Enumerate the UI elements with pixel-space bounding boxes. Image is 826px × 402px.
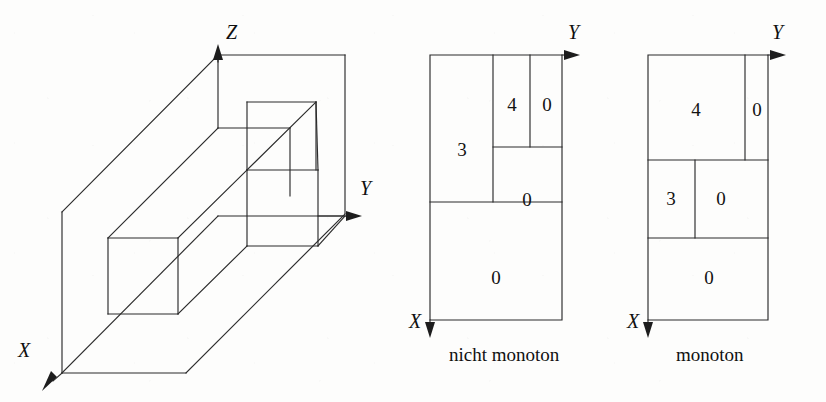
cell-value-nm-middle-right: 0 [517, 190, 537, 209]
blockA-bottom-right-diagonal [178, 246, 247, 314]
axis-label-y-monotone: Y [772, 22, 783, 42]
cell-value-nm-bottom-wide: 0 [486, 268, 506, 287]
z-axis-arrowhead [213, 44, 223, 60]
cell-value-m-bottom-wide: 0 [699, 268, 719, 287]
axis-label-x-monotone: X [627, 311, 639, 331]
nm-y-axis-arrowhead [564, 50, 580, 60]
m-y-axis-arrowhead [770, 50, 786, 60]
figure-vector-layer [0, 0, 826, 402]
slab-inner-ledge-diagonal [108, 128, 218, 238]
axis-label-y-non-monotone: Y [568, 22, 579, 42]
axis-label-y-3d: Y [360, 178, 371, 198]
slab-base-right-diagonal [186, 214, 345, 373]
axis-label-x-3d: X [18, 340, 30, 360]
slab-floor-left-diagonal [62, 216, 218, 373]
blockB-base-right-link [318, 216, 345, 246]
cell-value-m-top-right: 0 [747, 100, 767, 119]
axis-label-z-3d: Z [226, 22, 237, 42]
caption-non-monotone: nicht monoton [449, 345, 559, 364]
blockB-top-left-diagonal [247, 102, 316, 170]
m-x-axis-arrowhead [643, 322, 653, 338]
panel-isometric-geometry [42, 44, 362, 391]
y-axis-arrowhead [346, 211, 362, 221]
cell-value-nm-left-tall: 3 [452, 140, 472, 159]
cell-value-m-top-wide: 4 [686, 100, 706, 119]
cell-value-m-middle-left: 3 [661, 189, 681, 208]
axis-label-x-non-monotone: X [409, 311, 421, 331]
blockA-top-right-diagonal [178, 170, 247, 238]
nm-x-axis-arrowhead [425, 322, 435, 338]
figure-root: Z Y X Y X 3 4 0 0 0 nicht monoton Y X 4 … [0, 0, 826, 402]
slab-back-left-edge [62, 55, 218, 212]
cell-value-nm-top-middle: 4 [502, 95, 522, 114]
panel-non-monotone-geometry [425, 50, 580, 338]
cell-value-nm-top-right: 0 [537, 95, 557, 114]
cell-value-m-middle-right: 0 [711, 189, 731, 208]
caption-monotone: monoton [676, 345, 744, 364]
x-axis-arrowhead [42, 371, 57, 391]
